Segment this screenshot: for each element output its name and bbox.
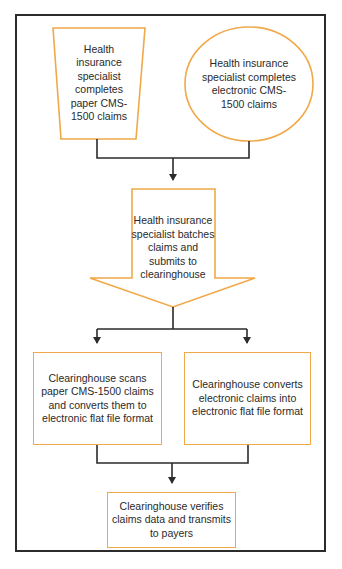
node-verify-label: Clearinghouse verifies claims data and t… (110, 494, 233, 546)
node-batch-label: Health insurance specialist batches clai… (130, 196, 216, 300)
node-scan-label: Clearinghouse scans paper CMS-1500 claim… (38, 354, 157, 443)
node-convert-label: Clearinghouse converts electronic claims… (192, 354, 303, 443)
node-electronic-label: Health insurance specialist completes el… (200, 36, 298, 132)
node-paper-label: Health insurance specialist completes pa… (64, 30, 134, 136)
